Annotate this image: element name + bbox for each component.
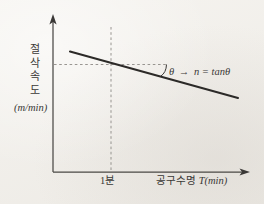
arrow-symbol: → [177, 66, 192, 77]
x-axis-title-text: 공구수명 [156, 175, 196, 186]
y-axis-title-char-1: 절 [27, 44, 43, 55]
y-axis [49, 14, 56, 172]
y-axis-title-char-3: 속 [27, 71, 43, 82]
x-axis-title: 공구수명 T(min) [156, 176, 227, 187]
x-axis-unit: T(min) [199, 175, 228, 186]
y-axis-title-char-2: 삭 [27, 58, 43, 69]
theta-symbol: θ [169, 66, 174, 77]
slope-equation: n = tanθ [194, 66, 230, 77]
slope-annotation: θ → n = tanθ [169, 67, 230, 78]
figure-canvas: 절 삭 속 도 (m/min) 1분 공구수명 T(min) θ → n = t… [0, 0, 264, 204]
angle-arc [161, 65, 167, 77]
x-axis-tick-label: 1분 [100, 176, 115, 187]
y-axis-unit: (m/min) [14, 103, 47, 114]
y-axis-title: 절 삭 속 도 [27, 44, 43, 98]
y-axis-title-char-4: 도 [27, 85, 43, 96]
